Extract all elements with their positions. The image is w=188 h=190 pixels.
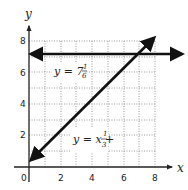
y-tick-8: 8 bbox=[20, 36, 26, 46]
x-tick-2: 2 bbox=[58, 173, 64, 183]
origin-label: 0 bbox=[21, 173, 27, 183]
annotation-line2: y = x + 1 3 bbox=[70, 128, 114, 152]
y-axis-label: y bbox=[24, 7, 32, 21]
x-tick-4: 4 bbox=[89, 173, 95, 183]
svg-text:y = x +: y = x + bbox=[72, 133, 114, 146]
y-tick-6: 6 bbox=[20, 68, 26, 78]
chart-canvas: y x 0 2 4 6 8 2 4 6 8 y = 7 1 6 y = x + … bbox=[0, 0, 188, 190]
x-tick-8: 8 bbox=[152, 173, 158, 183]
svg-text:6: 6 bbox=[82, 72, 87, 80]
y-tick-4: 4 bbox=[20, 99, 26, 109]
x-tick-6: 6 bbox=[121, 173, 127, 183]
svg-text:1: 1 bbox=[83, 63, 87, 71]
y-tick-2: 2 bbox=[20, 130, 26, 140]
svg-text:3: 3 bbox=[102, 141, 107, 149]
svg-text:y = 7: y = 7 bbox=[53, 65, 83, 78]
annotation-line1: y = 7 1 6 bbox=[52, 62, 87, 82]
svg-text:1: 1 bbox=[103, 130, 107, 138]
x-axis-label: x bbox=[177, 161, 184, 175]
